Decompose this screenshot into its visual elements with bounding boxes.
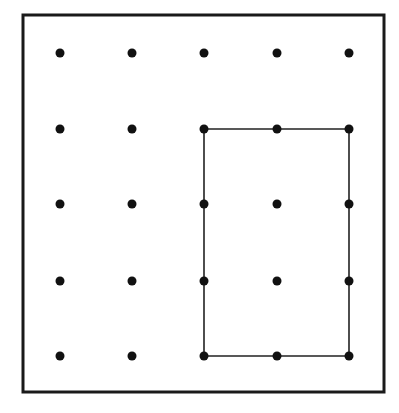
grid-dot-r5-c5 <box>345 352 354 361</box>
grid-dot-r1-c4 <box>273 49 282 58</box>
grid-dot-r1-c3 <box>200 49 209 58</box>
grid-dot-r3-c3 <box>200 200 209 209</box>
grid-dot-r2-c5 <box>345 125 354 134</box>
grid-dot-r2-c1 <box>56 125 65 134</box>
geoboard-diagram <box>0 0 399 413</box>
grid-dot-r1-c2 <box>128 49 137 58</box>
grid-dot-r1-c5 <box>345 49 354 58</box>
grid-dot-r5-c3 <box>200 352 209 361</box>
grid-dot-r2-c3 <box>200 125 209 134</box>
grid-dot-r4-c1 <box>56 277 65 286</box>
drawn-rectangle <box>204 129 349 356</box>
grid-dot-r3-c5 <box>345 200 354 209</box>
grid-dot-r5-c4 <box>273 352 282 361</box>
grid-dot-r3-c2 <box>128 200 137 209</box>
grid-dot-r5-c2 <box>128 352 137 361</box>
grid-dot-r3-c4 <box>273 200 282 209</box>
grid-dot-r1-c1 <box>56 49 65 58</box>
grid-dot-r2-c4 <box>273 125 282 134</box>
grid-dot-r3-c1 <box>56 200 65 209</box>
grid-dot-r4-c3 <box>200 277 209 286</box>
grid-dot-r5-c1 <box>56 352 65 361</box>
grid-dot-r4-c2 <box>128 277 137 286</box>
grid-dot-r4-c4 <box>273 277 282 286</box>
grid-dot-r2-c2 <box>128 125 137 134</box>
grid-dot-r4-c5 <box>345 277 354 286</box>
